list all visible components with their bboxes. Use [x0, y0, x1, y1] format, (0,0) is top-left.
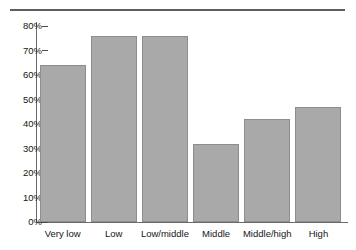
y-tick-label: 60% [0, 69, 42, 81]
x-tick-label: High [287, 227, 350, 241]
bar [40, 65, 86, 222]
y-tick-label: 30% [0, 143, 42, 155]
y-tick-label: 80% [0, 20, 42, 32]
plot-area: 0%10%20%30%40%50%60%70%80% Very lowLowLo… [0, 0, 356, 250]
x-axis-line [36, 222, 348, 223]
bar-chart-figure: 0%10%20%30%40%50%60%70%80% Very lowLowLo… [0, 0, 356, 250]
y-tick-label: 10% [0, 192, 42, 204]
y-tick-label: 50% [0, 94, 42, 106]
y-tick-mark [42, 26, 48, 27]
bar [295, 107, 341, 222]
bar [91, 36, 137, 222]
y-tick-label: 40% [0, 118, 42, 130]
bar [244, 119, 290, 222]
bar [142, 36, 188, 222]
y-tick-mark [42, 50, 48, 51]
y-tick-label: 20% [0, 167, 42, 179]
y-tick-label: 70% [0, 45, 42, 57]
bar [193, 144, 239, 222]
